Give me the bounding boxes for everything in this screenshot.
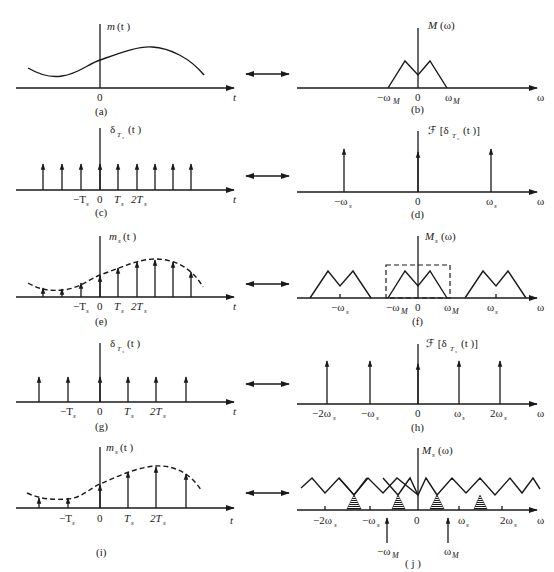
svg-text:s: s xyxy=(457,136,459,141)
svg-text:−T: −T xyxy=(59,512,72,524)
panel-c-caption: (c) xyxy=(95,206,108,219)
svg-text:s: s xyxy=(121,307,124,315)
panel-i-caption: (i) xyxy=(96,546,107,559)
svg-text:−ω: −ω xyxy=(361,407,374,419)
panel-c-ylabel: δ xyxy=(110,123,115,135)
svg-text:−ω: −ω xyxy=(386,301,399,313)
svg-text:s: s xyxy=(514,521,517,529)
svg-text:s: s xyxy=(377,521,380,529)
svg-text:s: s xyxy=(333,414,336,422)
svg-text:T: T xyxy=(124,405,131,417)
panel-i-ylabel: m xyxy=(106,441,114,453)
samples xyxy=(43,260,191,297)
svg-text:(t ): (t ) xyxy=(120,441,133,454)
panel-g-ylabel: δ xyxy=(110,337,115,349)
svg-text:ω: ω xyxy=(444,545,451,557)
svg-text:ω: ω xyxy=(458,514,465,526)
svg-text:−T: −T xyxy=(60,405,73,417)
svg-text:s: s xyxy=(131,519,134,527)
svg-text:ω: ω xyxy=(444,301,451,313)
svg-text:s: s xyxy=(455,349,457,354)
svg-text:(t )]: (t )] xyxy=(463,124,480,137)
svg-text:(ω): (ω) xyxy=(438,444,453,457)
panel-a-ylabel: m xyxy=(107,20,115,32)
svg-text:−2ω: −2ω xyxy=(312,407,331,419)
svg-text:(t ): (t ) xyxy=(128,123,141,136)
svg-text:2T: 2T xyxy=(131,300,144,312)
svg-text:ω: ω xyxy=(487,301,494,313)
svg-text:0: 0 xyxy=(97,193,103,205)
svg-text:t: t xyxy=(233,300,237,312)
panel-h-ylabel: ℱ [δ xyxy=(426,337,447,349)
svg-text:−ω: −ω xyxy=(362,514,375,526)
svg-text:s: s xyxy=(144,307,147,315)
panel-e-sampled-signal: m s (t ) −T s 0 T s 2T s t (e) xyxy=(16,230,237,328)
svg-text:s: s xyxy=(122,135,124,140)
panel-b-caption: (b) xyxy=(411,103,424,116)
svg-text:s: s xyxy=(432,451,435,459)
svg-text:ω: ω xyxy=(486,195,493,207)
svg-text:s: s xyxy=(144,200,147,208)
sampling-figure: m (t ) 0 t (a) M (ω) −ω M 0 ω M ω (b) xyxy=(0,0,554,572)
panel-d-ylabel: ℱ [δ xyxy=(428,124,449,136)
svg-text:T: T xyxy=(124,512,131,524)
svg-text:0: 0 xyxy=(97,405,103,417)
svg-text:−ω: −ω xyxy=(377,545,390,557)
svg-text:(t ): (t ) xyxy=(117,20,130,33)
panel-g-impulse-train-sparse: δ T s (t ) −T s 0 T s 2T s t (g) xyxy=(16,337,237,433)
svg-text:0: 0 xyxy=(415,195,421,207)
panel-d-impulse-spectrum: ℱ [δ T s (t )] −ω s 0 ω s ω (d) xyxy=(297,124,544,221)
svg-text:0: 0 xyxy=(97,91,103,103)
impulses xyxy=(39,377,186,402)
svg-text:2T: 2T xyxy=(150,405,163,417)
svg-text:−T: −T xyxy=(73,193,86,205)
panel-e-ylabel: m xyxy=(109,230,117,242)
svg-text:(ω): (ω) xyxy=(440,19,455,32)
panel-f-caption: (f) xyxy=(412,315,423,328)
svg-text:0: 0 xyxy=(415,407,421,419)
panel-h-caption: (h) xyxy=(411,421,424,434)
svg-text:s: s xyxy=(115,448,118,456)
svg-text:T: T xyxy=(114,300,121,312)
svg-text:s: s xyxy=(163,519,166,527)
svg-text:s: s xyxy=(86,307,89,315)
panel-j-caption: ( j ) xyxy=(405,557,421,570)
svg-text:−ω: −ω xyxy=(377,91,390,103)
svg-text:s: s xyxy=(495,308,498,316)
svg-text:t: t xyxy=(233,91,237,103)
svg-text:s: s xyxy=(131,412,134,420)
svg-text:0: 0 xyxy=(97,512,103,524)
svg-text:(t ): (t ) xyxy=(127,337,140,350)
svg-text:s: s xyxy=(118,237,121,245)
svg-text:M: M xyxy=(452,97,461,106)
svg-text:s: s xyxy=(72,519,75,527)
svg-text:s: s xyxy=(86,200,89,208)
samples xyxy=(39,467,186,508)
svg-text:s: s xyxy=(346,308,349,316)
panel-i-undersampled-signal: m s (t ) −T s 0 T s 2T s t (i) xyxy=(16,441,234,559)
panel-e-caption: (e) xyxy=(95,315,108,328)
panel-c-impulse-train: δ T s (t ) −T s 0 T s 2T s t (c) xyxy=(16,123,237,219)
svg-text:ω: ω xyxy=(537,195,544,207)
svg-text:−T: −T xyxy=(73,300,86,312)
svg-text:0: 0 xyxy=(415,91,421,103)
svg-text:ω: ω xyxy=(445,91,452,103)
svg-text:s: s xyxy=(163,412,166,420)
svg-text:(t )]: (t )] xyxy=(461,337,478,350)
svg-text:ω: ω xyxy=(537,301,544,313)
svg-text:t: t xyxy=(230,514,234,526)
svg-text:t: t xyxy=(233,405,237,417)
svg-text:0: 0 xyxy=(415,301,421,313)
svg-text:M: M xyxy=(451,307,460,316)
svg-text:M: M xyxy=(451,551,460,560)
svg-text:s: s xyxy=(349,202,352,210)
svg-text:s: s xyxy=(494,202,497,210)
svg-text:s: s xyxy=(466,521,469,529)
svg-text:2T: 2T xyxy=(150,512,163,524)
svg-text:2ω: 2ω xyxy=(500,514,513,526)
svg-text:2ω: 2ω xyxy=(490,407,503,419)
svg-text:(t ): (t ) xyxy=(123,230,136,243)
svg-text:s: s xyxy=(122,349,124,354)
svg-text:s: s xyxy=(462,414,465,422)
panel-a-caption: (a) xyxy=(95,105,108,118)
